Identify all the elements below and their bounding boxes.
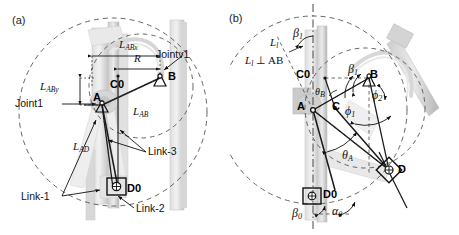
- label-beta1-top: β1: [293, 26, 303, 41]
- label-theta-a: θA: [342, 148, 353, 163]
- panel-b-leaders: [289, 46, 303, 52]
- label-l-ad: LAD: [73, 140, 89, 154]
- label-l-l: Ll: [270, 36, 278, 50]
- label-r: R: [134, 52, 141, 64]
- callout-link2: Link-2: [136, 202, 165, 214]
- label-beta0: β0: [292, 206, 302, 221]
- point-label-b: B: [168, 70, 176, 82]
- label-phi2: ϕ2: [372, 88, 382, 103]
- label-theta-b: θB: [315, 86, 325, 99]
- callout-joint2: Jointv1: [156, 48, 189, 60]
- label-alpha0: α0: [332, 204, 342, 219]
- point-label-a-b: A: [297, 100, 305, 112]
- point-label-c0: C0: [110, 78, 124, 90]
- label-phi1: ϕ1: [345, 104, 355, 119]
- figure-root: (a) LABx R LABy LAB LAD A B C0 D0 Joint1…: [0, 0, 459, 235]
- point-label-d-b: D: [398, 163, 406, 175]
- label-l-abx: LABx: [119, 38, 138, 52]
- callout-joint1: Joint1: [15, 97, 43, 109]
- point-label-c0-b: C0: [296, 68, 310, 80]
- label-l-aby: LABy: [40, 80, 59, 94]
- panel-b-photo-background: [293, 24, 439, 222]
- point-label-a: A: [93, 91, 101, 103]
- label-perp-note: Ll ⊥ AB: [245, 54, 283, 68]
- point-label-d0: D0: [127, 182, 141, 194]
- callout-link3: Link-3: [148, 145, 177, 157]
- label-beta1-mid: β1: [348, 62, 358, 77]
- panel-b-graphics: [229, 0, 459, 235]
- callout-link1: Link-1: [21, 190, 50, 202]
- panel-b-tag: (b): [229, 12, 242, 24]
- point-label-b-b: B: [370, 68, 378, 80]
- point-label-c-b: C: [332, 100, 340, 112]
- point-label-d0-b: D0: [323, 188, 337, 200]
- panel-a-tag: (a): [12, 14, 25, 26]
- label-l-ab: LAB: [133, 105, 148, 119]
